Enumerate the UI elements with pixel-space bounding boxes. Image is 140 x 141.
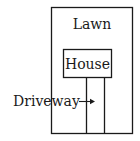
driveway-label: Driveway xyxy=(13,93,80,109)
driveway xyxy=(87,78,105,134)
lawn-label: Lawn xyxy=(73,16,112,32)
site-diagram: Lawn House Driveway xyxy=(0,0,140,141)
house-label: House xyxy=(65,56,110,72)
